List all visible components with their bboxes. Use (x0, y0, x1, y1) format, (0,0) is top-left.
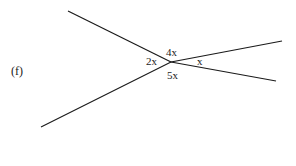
angle-label-top: 4x (166, 46, 178, 58)
angle-label-bottom: 5x (167, 69, 179, 81)
angle-label-right: x (197, 55, 203, 67)
angle-label-left: 2x (146, 55, 158, 67)
ray-upper-right (171, 41, 282, 62)
ray-lower-left (41, 62, 171, 127)
angle-diagram: (f) 2x 4x x 5x (0, 0, 296, 166)
ray-lower-right (171, 62, 276, 81)
figure-label: (f) (11, 64, 23, 78)
